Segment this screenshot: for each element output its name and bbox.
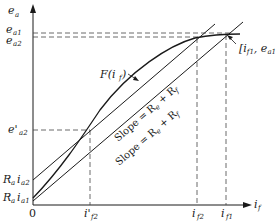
y-axis-label: e a: [8, 4, 19, 19]
svg-text:a2: a2: [13, 40, 22, 48]
svg-text:i: i: [254, 198, 258, 211]
svg-text:R: R: [2, 191, 11, 204]
svg-text:a2: a2: [19, 129, 28, 137]
y-axis-arrow-icon: [30, 4, 36, 13]
svg-text:e': e': [8, 123, 18, 136]
svg-text:i: i: [17, 173, 21, 186]
svg-text:e: e: [6, 34, 13, 47]
svg-text:f2: f2: [196, 213, 205, 221]
y-tick-ra-ia1: R a i a1: [2, 191, 30, 205]
svg-text:a: a: [15, 11, 19, 19]
origin-label: 0: [29, 207, 36, 220]
pointer-arrow-icon: [227, 35, 233, 40]
x-axis-arrow-icon: [243, 202, 252, 208]
svg-text:F(i: F(i: [99, 68, 115, 81]
y-tick-ea2-prime: e' a2: [8, 123, 28, 137]
operating-point-label: [if1, ea1: [227, 35, 276, 56]
svg-text:a: a: [11, 197, 15, 205]
svg-text:i: i: [17, 191, 21, 204]
pointer-arrow-icon: [133, 76, 139, 81]
y-tick-ra-ia2: R a i a2: [2, 173, 30, 187]
svg-text:i': i': [84, 207, 91, 220]
x-tick-if2-prime: i' f2: [84, 207, 99, 221]
svg-text:a2: a2: [21, 179, 30, 187]
svg-text:f1: f1: [225, 213, 233, 221]
x-axis-label: i f: [254, 198, 262, 212]
svg-text:a: a: [11, 179, 15, 187]
svg-text:e: e: [8, 4, 15, 17]
svg-text:R: R: [2, 173, 11, 186]
svg-text:): ): [121, 68, 126, 81]
x-tick-if2: i f2: [192, 207, 205, 221]
svg-text:f: f: [257, 204, 262, 212]
x-tick-if1: i f1: [221, 207, 233, 221]
svg-text:f2: f2: [90, 213, 99, 221]
svg-text:i: i: [221, 207, 225, 220]
svg-text:i: i: [192, 207, 196, 220]
svg-text:a1: a1: [21, 197, 30, 205]
dc-generator-diagram: e a e a1 e a2 e' a2 R a i a2 R a i a1 0 …: [0, 0, 278, 221]
svg-text:a1: a1: [13, 29, 22, 37]
svg-text:[if1, ea1: [if1, ea1: [239, 42, 276, 56]
